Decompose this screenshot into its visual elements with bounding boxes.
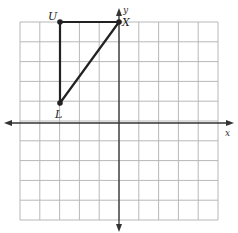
x-axis-label: x bbox=[225, 128, 230, 138]
x-axis-left-arrow-icon bbox=[4, 120, 12, 126]
y-axis-up-arrow-icon bbox=[116, 8, 122, 16]
vertex-label-u: U bbox=[48, 10, 58, 23]
vertex-l bbox=[57, 100, 63, 106]
triangle-ulx bbox=[60, 22, 119, 103]
y-axis-label: y bbox=[122, 5, 129, 15]
vertex-x bbox=[116, 19, 122, 25]
vertex-label-l: L bbox=[54, 108, 62, 121]
x-axis-right-arrow-icon bbox=[226, 120, 234, 126]
y-axis-down-arrow-icon bbox=[116, 224, 122, 232]
vertex-label-x: X bbox=[121, 16, 131, 29]
coordinate-plane: x y U X L bbox=[0, 0, 238, 233]
vertex-u bbox=[57, 19, 63, 25]
